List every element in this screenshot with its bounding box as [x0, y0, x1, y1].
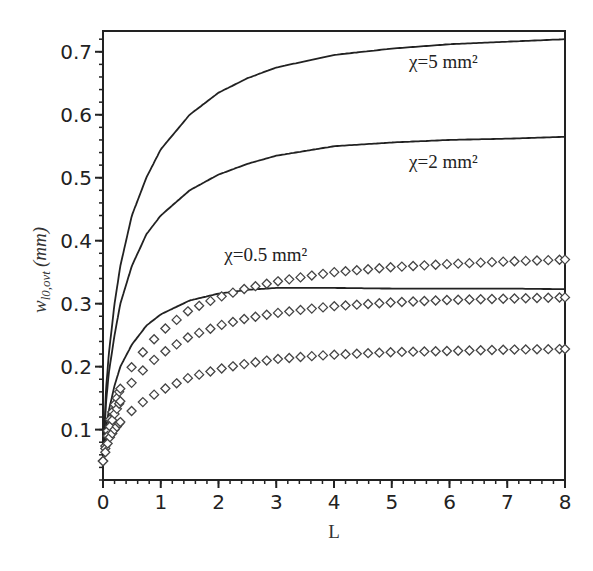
diamond-marker — [352, 300, 361, 309]
curve-annotation-0: χ=5 mm² — [408, 51, 478, 72]
diamond-marker — [420, 296, 429, 305]
diamond-marker — [409, 297, 418, 306]
diamond-marker — [217, 364, 226, 373]
diamond-marker — [420, 347, 429, 356]
diamond-marker — [341, 301, 350, 310]
diamond-marker — [420, 261, 429, 270]
plot-border — [103, 31, 565, 480]
diamond-marker — [127, 378, 136, 387]
diamond-marker — [476, 346, 485, 355]
diamond-marker — [161, 347, 170, 356]
plot-frame — [103, 31, 565, 480]
diamond-marker — [262, 279, 271, 288]
y-axis-title: wl0,ovt(mm) — [29, 227, 53, 313]
diamond-marker — [510, 294, 519, 303]
diamond-marker — [296, 352, 305, 361]
diamond-marker — [375, 264, 384, 273]
diamond-marker — [251, 312, 260, 321]
solid-curve-2 — [103, 288, 565, 468]
diamond-marker — [397, 262, 406, 271]
diamond-marker — [532, 256, 541, 265]
diamond-marker — [172, 379, 181, 388]
diamond-marker — [251, 358, 260, 367]
diamond-marker — [195, 328, 204, 337]
diamond-marker — [521, 345, 530, 354]
diamond-marker — [285, 353, 294, 362]
diamond-marker — [364, 349, 373, 358]
diamond-marker — [285, 307, 294, 316]
diamond-marker — [307, 271, 316, 280]
diamond-marker — [319, 351, 328, 360]
diamond-marker — [442, 260, 451, 269]
diamond-marker — [319, 303, 328, 312]
diamond-marker — [454, 295, 463, 304]
diamond-marker — [352, 266, 361, 275]
diamond-marker — [273, 308, 282, 317]
diamond-series-4 — [99, 293, 570, 466]
diamond-series-5 — [99, 345, 570, 466]
diamond-marker — [465, 259, 474, 268]
diamond-marker — [431, 347, 440, 356]
diamond-marker — [532, 293, 541, 302]
diamond-marker — [127, 407, 136, 416]
y-tick-label: 0.6 — [60, 103, 92, 127]
x-axis: 012345678 — [97, 480, 572, 514]
x-tick-label: 0 — [97, 490, 110, 514]
diamond-marker — [240, 284, 249, 293]
chart-canvas: 0.10.20.30.40.50.60.7 012345678 χ=5 mm²χ… — [0, 0, 593, 571]
y-tick-label: 0.2 — [60, 355, 92, 379]
diamond-marker — [487, 345, 496, 354]
diamond-marker — [172, 340, 181, 349]
diamond-marker — [465, 295, 474, 304]
diamond-marker — [307, 304, 316, 313]
diamond-marker — [195, 301, 204, 310]
diamond-marker — [499, 294, 508, 303]
x-tick-label: 7 — [501, 490, 514, 514]
diamond-marker — [544, 293, 553, 302]
y-tick-label: 0.7 — [60, 40, 92, 64]
diamond-marker — [397, 297, 406, 306]
diamond-marker — [375, 348, 384, 357]
diamond-marker — [465, 346, 474, 355]
diamond-marker — [195, 370, 204, 379]
diamond-marker — [476, 258, 485, 267]
annotations: χ=5 mm²χ=2 mm²χ=0.5 mm² — [223, 51, 478, 265]
diamond-marker — [228, 288, 237, 297]
y-axis-title-sub: l0,ovt — [38, 271, 53, 301]
diamond-marker — [375, 299, 384, 308]
diamond-marker — [330, 302, 339, 311]
diamond-marker — [150, 335, 159, 344]
x-tick-label: 1 — [154, 490, 167, 514]
diamond-marker — [273, 277, 282, 286]
diamond-marker — [99, 457, 108, 466]
diamond-marker — [150, 355, 159, 364]
diamond-marker — [161, 384, 170, 393]
x-tick-label: 6 — [443, 490, 456, 514]
diamond-marker — [138, 348, 147, 357]
diamond-marker — [397, 347, 406, 356]
y-tick-label: 0.1 — [60, 418, 92, 442]
diamond-marker — [161, 324, 170, 333]
diamond-marker — [319, 269, 328, 278]
diamond-marker — [172, 315, 181, 324]
diamond-marker — [521, 294, 530, 303]
y-tick-label: 0.5 — [60, 166, 92, 190]
diamond-marker — [228, 317, 237, 326]
diamond-marker — [262, 356, 271, 365]
diamond-marker — [228, 362, 237, 371]
y-tick-label: 0.3 — [60, 292, 92, 316]
diamond-marker — [206, 296, 215, 305]
diamond-marker — [544, 345, 553, 354]
diamond-marker — [510, 345, 519, 354]
diamond-marker — [341, 267, 350, 276]
diamond-marker — [499, 345, 508, 354]
diamond-marker — [341, 350, 350, 359]
diamond-marker — [544, 256, 553, 265]
diamond-marker — [431, 296, 440, 305]
diamond-marker — [487, 258, 496, 267]
x-tick-label: 8 — [559, 490, 572, 514]
diamond-marker — [127, 363, 136, 372]
diamond-marker — [364, 299, 373, 308]
x-tick-label: 2 — [212, 490, 225, 514]
diamond-marker — [386, 263, 395, 272]
